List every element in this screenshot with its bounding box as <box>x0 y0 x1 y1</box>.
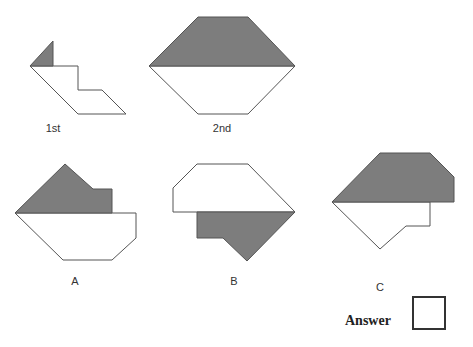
option-b-figure[interactable] <box>173 164 295 261</box>
option-b-shaded-part <box>197 212 295 261</box>
figure-1st-label: 1st <box>46 122 61 134</box>
figure-1st-shaded-part <box>30 41 53 66</box>
figure-2nd-white-part <box>149 66 295 114</box>
option-b-white-part <box>173 164 295 212</box>
figure-2nd-shaded-part <box>149 17 295 66</box>
option-a-shaded-part <box>15 164 112 213</box>
option-c-shaded-part <box>332 153 454 202</box>
answer-box[interactable] <box>412 296 446 330</box>
option-a-label: A <box>71 275 78 287</box>
puzzle-canvas <box>0 0 473 347</box>
figure-2nd-label: 2nd <box>213 122 231 134</box>
option-c-figure[interactable] <box>332 153 454 249</box>
figure-1st <box>30 41 126 114</box>
option-c-label: C <box>376 281 384 293</box>
answer-label: Answer <box>345 313 391 329</box>
figure-2nd <box>149 17 295 114</box>
option-b-label: B <box>230 275 237 287</box>
option-c-white-part <box>332 202 430 249</box>
option-a-figure[interactable] <box>15 164 136 260</box>
option-a-white-part <box>15 213 136 260</box>
figure-1st-white-part <box>30 66 126 114</box>
